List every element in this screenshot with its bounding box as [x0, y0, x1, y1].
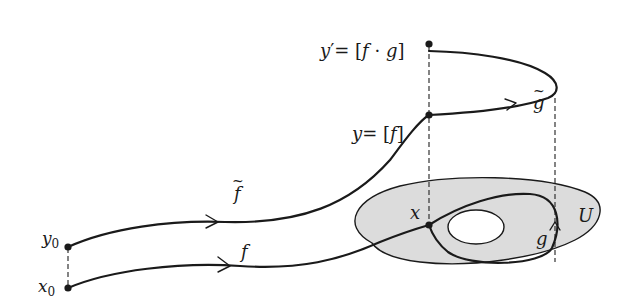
label-y: y= [f] [351, 123, 404, 144]
label-f: f [239, 241, 251, 262]
label-u: U [578, 205, 594, 226]
label-x: x [410, 202, 420, 223]
label-y0: y0 [41, 228, 59, 251]
point-x [425, 221, 432, 228]
point-y-prime [425, 40, 432, 47]
label-x0: x0 [38, 276, 55, 299]
label-f-tilde-accent: ~ [232, 173, 244, 189]
covering-space-diagram: y0 x0 f ~ f y= [f] y′= [f · g] g ~ x g U [0, 0, 635, 306]
label-g-tilde-accent: ~ [533, 83, 545, 99]
point-x0 [64, 284, 71, 291]
region-hole [448, 210, 504, 244]
point-y [425, 111, 432, 118]
label-y-prime: y′= [f · g] [319, 40, 405, 61]
label-g: g [536, 228, 548, 249]
point-y0 [64, 243, 71, 250]
